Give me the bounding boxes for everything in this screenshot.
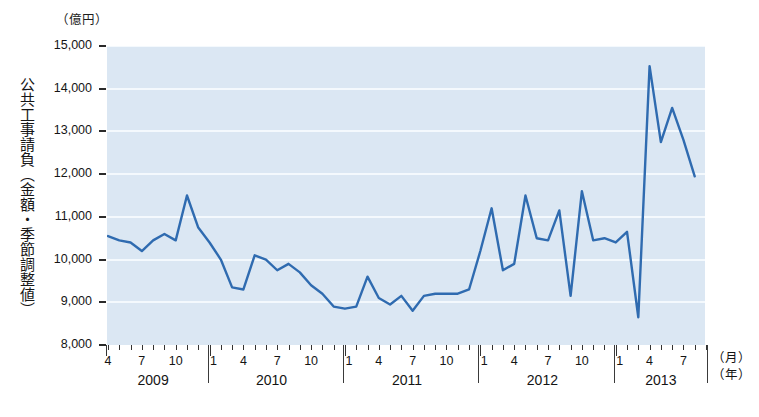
y-tick-dash bbox=[99, 173, 106, 175]
x-tick bbox=[221, 345, 222, 350]
x-tick-month-label: 7 bbox=[138, 354, 145, 368]
x-tick bbox=[390, 345, 391, 350]
x-tick bbox=[368, 345, 369, 350]
data-line bbox=[107, 46, 705, 345]
x-tick bbox=[627, 345, 628, 350]
y-tick-dash bbox=[99, 344, 106, 346]
x-tick-month-label: 10 bbox=[169, 354, 183, 368]
x-tick bbox=[232, 345, 233, 350]
x-tick bbox=[176, 345, 177, 350]
year-separator bbox=[478, 345, 479, 383]
y-tick-label: 10,000 bbox=[0, 252, 92, 266]
y-tick-label: 12,000 bbox=[0, 166, 92, 180]
x-axis-unit-caption: （月） （年） bbox=[712, 350, 751, 384]
x-tick-month-label: 1 bbox=[345, 354, 352, 368]
x-tick bbox=[243, 345, 244, 350]
x-tick bbox=[153, 345, 154, 350]
y-tick-dash bbox=[99, 45, 106, 47]
x-tick bbox=[424, 345, 425, 350]
x-tick bbox=[108, 345, 109, 350]
y-tick-label: 8,000 bbox=[0, 337, 92, 351]
x-tick bbox=[672, 345, 673, 350]
x-tick bbox=[695, 345, 696, 350]
year-separator bbox=[707, 345, 708, 383]
x-tick bbox=[604, 345, 605, 350]
x-tick bbox=[548, 345, 549, 350]
x-tick bbox=[322, 345, 323, 350]
x-tick-month-label: 4 bbox=[375, 354, 382, 368]
x-tick bbox=[289, 345, 290, 350]
x-tick bbox=[571, 345, 572, 350]
x-tick bbox=[593, 345, 594, 350]
x-axis-month-unit: （月） bbox=[712, 350, 751, 367]
x-tick-month-label: 1 bbox=[210, 354, 217, 368]
x-tick-month-label: 10 bbox=[575, 354, 589, 368]
chart-figure: 公共工事請負（金額・季節調整値） （億円） 8,0009,00010,00011… bbox=[0, 0, 759, 417]
x-tick bbox=[514, 345, 515, 350]
plot-area bbox=[107, 46, 705, 345]
x-tick bbox=[255, 345, 256, 350]
x-axis-year-label: 2009 bbox=[138, 372, 169, 388]
x-axis-year-label: 2011 bbox=[392, 372, 422, 388]
x-tick bbox=[492, 345, 493, 350]
y-tick-label: 15,000 bbox=[0, 38, 92, 52]
x-tick bbox=[198, 345, 199, 350]
y-tick-dash bbox=[99, 88, 106, 90]
x-tick-month-label: 4 bbox=[105, 354, 112, 368]
year-separator bbox=[208, 345, 209, 383]
y-tick-dash bbox=[99, 301, 106, 303]
x-tick bbox=[446, 345, 447, 350]
x-tick bbox=[661, 345, 662, 350]
x-tick bbox=[300, 345, 301, 350]
x-tick-month-label: 7 bbox=[409, 354, 416, 368]
x-tick bbox=[119, 345, 120, 350]
x-axis-year-label: 2012 bbox=[527, 372, 558, 388]
x-tick bbox=[525, 345, 526, 350]
y-tick-dash bbox=[99, 259, 106, 261]
y-axis-unit-label: （億円） bbox=[56, 9, 108, 28]
x-tick bbox=[311, 345, 312, 350]
x-tick bbox=[638, 345, 639, 350]
x-tick-month-label: 7 bbox=[680, 354, 687, 368]
x-axis-year-label: 2010 bbox=[256, 372, 287, 388]
year-separator bbox=[614, 345, 615, 383]
x-tick bbox=[356, 345, 357, 350]
x-tick bbox=[582, 345, 583, 350]
x-tick bbox=[683, 345, 684, 350]
x-tick-month-label: 4 bbox=[646, 354, 653, 368]
y-tick-label: 13,000 bbox=[0, 123, 92, 137]
x-tick bbox=[401, 345, 402, 350]
y-tick-label: 9,000 bbox=[0, 294, 92, 308]
x-tick bbox=[334, 345, 335, 350]
x-tick-month-label: 4 bbox=[240, 354, 247, 368]
x-tick bbox=[142, 345, 143, 350]
x-tick bbox=[537, 345, 538, 350]
y-tick-dash bbox=[99, 216, 106, 218]
year-separator bbox=[343, 345, 344, 383]
y-tick-label: 11,000 bbox=[0, 209, 92, 223]
x-tick bbox=[187, 345, 188, 350]
x-tick-month-label: 10 bbox=[440, 354, 454, 368]
x-tick-month-label: 7 bbox=[545, 354, 552, 368]
x-tick bbox=[277, 345, 278, 350]
x-tick bbox=[413, 345, 414, 350]
x-tick bbox=[266, 345, 267, 350]
x-tick bbox=[650, 345, 651, 350]
x-axis-year-label: 2013 bbox=[645, 372, 676, 388]
y-axis-title: 公共工事請負（金額・季節調整値） bbox=[4, 24, 34, 369]
y-tick-label: 14,000 bbox=[0, 81, 92, 95]
x-axis-year-unit: （年） bbox=[712, 367, 751, 384]
x-tick bbox=[435, 345, 436, 350]
x-tick-month-label: 1 bbox=[481, 354, 488, 368]
x-tick bbox=[131, 345, 132, 350]
y-tick-dash bbox=[99, 130, 106, 132]
x-tick-month-label: 7 bbox=[274, 354, 281, 368]
x-tick bbox=[469, 345, 470, 350]
x-tick bbox=[559, 345, 560, 350]
x-tick bbox=[379, 345, 380, 350]
x-tick-month-label: 4 bbox=[511, 354, 518, 368]
x-tick-month-label: 1 bbox=[616, 354, 623, 368]
x-tick bbox=[503, 345, 504, 350]
x-tick bbox=[458, 345, 459, 350]
x-tick-month-label: 10 bbox=[304, 354, 318, 368]
